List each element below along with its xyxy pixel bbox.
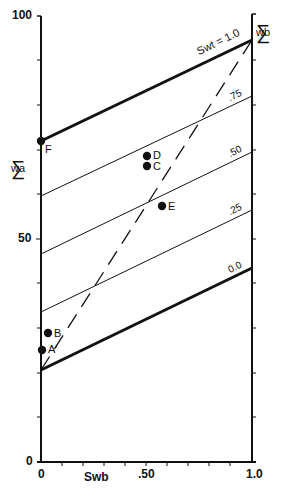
x-axis-label: Swb [84, 470, 109, 484]
point-label-E: E [168, 200, 175, 212]
point-label-C: C [153, 160, 161, 172]
y-axis-label-right: ∑wb [256, 22, 270, 40]
point-label-B: B [54, 327, 61, 339]
point-label-F: F [45, 143, 52, 155]
point-label-A-prime: A′ [48, 343, 57, 355]
y-tick-100: 100 [12, 8, 32, 22]
point-E [158, 202, 166, 210]
x-tick-50: .50 [138, 467, 155, 481]
swt-0.0-line [41, 268, 252, 370]
x-tick-0: 0 [38, 467, 45, 481]
point-A-prime [38, 346, 46, 354]
y-axis-label-left: ∑wa [11, 158, 25, 176]
point-D [143, 152, 151, 160]
y-tick-0: 0 [26, 454, 33, 468]
point-B [44, 329, 52, 337]
point-F [37, 137, 45, 145]
y-tick-50: 50 [18, 231, 31, 245]
swt-0.75-line [41, 96, 252, 196]
x-tick-100: 1.0 [246, 467, 263, 481]
point-C [143, 162, 151, 170]
swt-0.25-line [41, 210, 252, 312]
chart-canvas [0, 0, 294, 493]
